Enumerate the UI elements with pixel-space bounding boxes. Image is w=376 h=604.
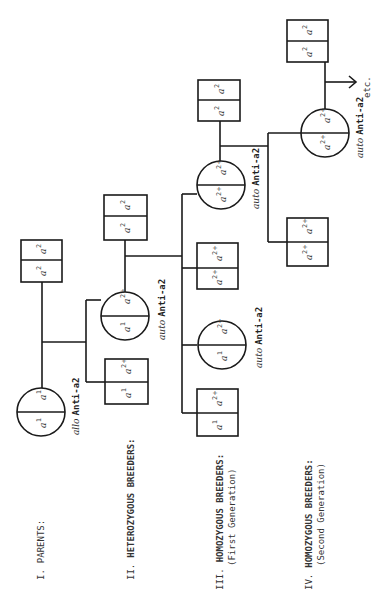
svg-text:a: a [216,111,226,116]
svg-text:(Second Generation): (Second Generation) [316,463,326,566]
svg-text:1: 1 [35,418,43,422]
svg-text:etc.: etc. [362,76,372,98]
svg-text:2+: 2+ [301,244,309,254]
svg-text:2: 2 [301,25,309,29]
gen2-heading: II.HETEROZYGOUS BREEDERS: [126,439,136,580]
continuation-label: etc. [362,76,372,98]
generation-headings: I.PARENTS: II.HETEROZYGOUS BREEDERS: III… [36,439,326,590]
svg-text:a: a [322,118,332,123]
svg-text:a: a [304,30,314,35]
svg-text:1: 1 [211,420,219,424]
svg-text:IV.HOMOZYGOUS BREEDERS:: IV.HOMOZYGOUS BREEDERS: [304,459,314,590]
svg-text:a: a [322,145,332,150]
breeding-diagram: a1 a1 a2 a2 a2+ a1 a2+ a1 a2 a2 a2+ a1 a… [0,0,376,604]
gen3-right-antibody-label: autoAnti-a2 [251,148,261,209]
svg-text:2: 2 [35,244,43,248]
svg-text:a: a [218,197,228,202]
svg-text:a: a [304,255,314,260]
svg-text:1: 1 [119,322,127,326]
svg-text:(First Generation): (First Generation) [227,468,237,566]
svg-text:autoAnti-a2: autoAnti-a2 [251,148,261,209]
gen1-heading: I.PARENTS: [36,520,46,580]
svg-text:2: 2 [119,223,127,227]
svg-text:III.HOMOZYGOUS BREEDERS:: III.HOMOZYGOUS BREEDERS: [215,454,225,590]
svg-text:1: 1 [216,351,224,355]
parent-antibody-label: alloAnti-a2 [71,378,81,435]
svg-text:II.HETEROZYGOUS BREEDERS:: II.HETEROZYGOUS BREEDERS: [126,439,136,580]
svg-text:2+: 2+ [319,134,327,144]
svg-text:2+: 2+ [301,218,309,228]
svg-text:a: a [214,280,224,285]
svg-text:a: a [122,205,132,210]
svg-text:1: 1 [120,388,128,392]
gen4-heading: IV.HOMOZYGOUS BREEDERS: (Second Generati… [304,459,326,590]
svg-text:a: a [38,249,48,254]
svg-text:2: 2 [119,200,127,204]
svg-text:2: 2 [213,84,221,88]
svg-text:autoAnti-a2: autoAnti-a2 [157,279,167,340]
svg-text:a: a [123,369,133,374]
svg-text:autoAnti-a2: autoAnti-a2 [254,307,264,368]
svg-text:alloAnti-a2: alloAnti-a2 [71,378,81,435]
gen4-antibody-label: autoAnti-a2 [355,97,365,158]
svg-text:a: a [216,89,226,94]
svg-text:2+: 2+ [211,390,219,400]
svg-text:a: a [219,356,229,361]
svg-text:a: a [219,329,229,334]
svg-text:a: a [38,423,48,428]
svg-text:a: a [218,170,228,175]
svg-text:a: a [38,271,48,276]
svg-text:a: a [122,228,132,233]
svg-text:a: a [122,327,132,332]
svg-text:2+: 2+ [119,288,127,298]
svg-text:a: a [214,256,224,261]
svg-text:a: a [122,299,132,304]
gen2-antibody-label: autoAnti-a2 [157,279,167,340]
gen3-heading: III.HOMOZYGOUS BREEDERS: (First Generati… [215,454,237,590]
svg-text:a: a [304,229,314,234]
svg-text:1: 1 [35,390,43,394]
svg-text:a: a [214,425,224,430]
svg-text:a: a [38,395,48,400]
svg-text:2+: 2+ [211,269,219,279]
svg-text:2+: 2+ [211,245,219,255]
svg-text:2: 2 [213,106,221,110]
svg-text:2+: 2+ [216,318,224,328]
svg-text:a: a [123,393,133,398]
gen3-left-antibody-label: autoAnti-a2 [254,307,264,368]
svg-text:2+: 2+ [215,186,223,196]
svg-text:a: a [304,52,314,57]
svg-text:2+: 2+ [215,159,223,169]
svg-text:2: 2 [301,47,309,51]
svg-text:2+: 2+ [319,107,327,117]
svg-text:2+: 2+ [120,358,128,368]
svg-text:2: 2 [35,266,43,270]
svg-text:autoAnti-a2: autoAnti-a2 [355,97,365,158]
svg-text:I.PARENTS:: I.PARENTS: [36,520,46,580]
svg-text:a: a [214,401,224,406]
